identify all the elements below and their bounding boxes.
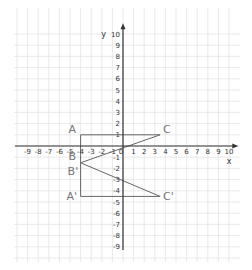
coordinate-plane: -9-8-7-6-5-4-3-2-10123456789101098765432…	[0, 0, 252, 270]
y-tick-label: -2	[113, 165, 120, 173]
y-tick-label: 2	[116, 120, 120, 128]
point-label-a-prime: A'	[67, 190, 78, 203]
x-tick-label: -7	[45, 148, 52, 156]
x-tick-label: -6	[56, 148, 64, 156]
y-tick-label: 7	[116, 64, 120, 72]
tick-labels: -9-8-7-6-5-4-3-2-10123456789101098765432…	[24, 30, 233, 252]
x-tick-label: -4	[77, 148, 85, 156]
y-tick-label: -7	[113, 221, 120, 229]
y-tick-label: -5	[113, 199, 120, 207]
y-tick-label: -3	[113, 176, 120, 184]
y-axis-label: y	[101, 30, 106, 39]
y-tick-label: -1	[113, 154, 120, 162]
y-tick-label: 10	[111, 31, 120, 39]
x-tick-label: 2	[142, 148, 146, 156]
y-tick-label: 1	[116, 131, 120, 139]
triangles	[81, 135, 161, 197]
y-tick-label: -8	[113, 232, 120, 240]
x-tick-label: 8	[206, 148, 210, 156]
y-tick-label: -4	[113, 187, 121, 195]
y-axis-arrow-icon	[121, 23, 126, 29]
y-tick-label: 4	[116, 98, 121, 106]
point-label-b: B	[69, 150, 77, 163]
x-tick-label: 1	[131, 148, 135, 156]
x-tick-label: -3	[88, 148, 95, 156]
y-tick-label: -6	[113, 210, 121, 218]
x-tick-label: 9	[216, 148, 220, 156]
x-tick-label: -9	[24, 148, 31, 156]
x-tick-label: 3	[153, 148, 157, 156]
x-tick-label: -8	[35, 148, 42, 156]
y-tick-label: 5	[116, 87, 120, 95]
x-tick-label: 7	[195, 148, 199, 156]
y-tick-label: 9	[116, 42, 120, 50]
x-tick-label: 6	[184, 148, 189, 156]
x-tick-label: 4	[163, 148, 168, 156]
point-label-c: C	[163, 123, 171, 136]
x-tick-label: 5	[174, 148, 178, 156]
x-tick-label: -2	[98, 148, 105, 156]
y-tick-label: 6	[116, 75, 121, 83]
y-tick-label: 8	[116, 53, 120, 61]
x-axis-label: x	[227, 157, 232, 166]
x-tick-label: 10	[225, 148, 234, 156]
point-label-a: A	[69, 123, 77, 136]
point-label-b-prime: B'	[68, 165, 79, 178]
point-label-c-prime: C'	[163, 190, 174, 203]
y-tick-label: -9	[113, 243, 120, 251]
y-tick-label: 3	[116, 109, 120, 117]
